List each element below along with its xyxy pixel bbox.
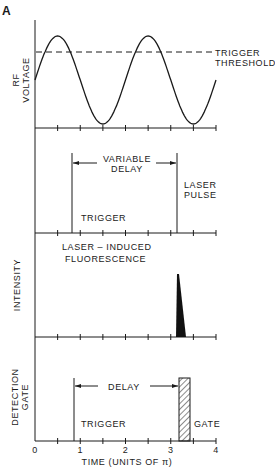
arrowhead-right [172,384,178,388]
gate-label: GATE [194,419,220,429]
rf-ylabel-2: VOLTAGE [21,57,31,102]
detection-ylabel-1: DETECTION [10,368,20,425]
fluorescence-spike [176,274,186,337]
variable-delay-label-1: VARIABLE [103,154,151,164]
rf-ylabel-1: RF [11,73,21,86]
arrowhead-right [170,161,176,165]
rf-voltage-curve [35,36,216,124]
variable-delay-label-2: DELAY [111,164,143,174]
x-tick-label: 4 [213,445,219,455]
trigger-label: TRIGGER [81,213,126,223]
x-tick-label: 0 [32,445,38,455]
delay-label: DELAY [108,382,140,392]
laser-pulse-label-1: LASER [184,180,217,190]
trigger-threshold-label-2: THRESHOLD [215,58,275,68]
trigger-threshold-label-1: TRIGGER [215,48,260,58]
detection-ylabel-2: GATE [20,384,30,410]
fluorescence-label-1: LASER – INDUCED [62,242,152,252]
panel-letter: A [2,4,11,18]
x-tick-label: 2 [123,445,129,455]
x-tick-label: 1 [77,445,83,455]
laser-pulse-label-2: PULSE [184,190,217,200]
x-tick-labels: 01234 [32,445,219,455]
intensity-ylabel: INTENSITY [12,259,22,311]
detection-gate-box [179,378,190,441]
fluorescence-label-2: FLUORESCENCE [65,254,146,264]
x-tick-label: 3 [168,445,174,455]
timing-diagram: A TRIGGER THRESHOLD RF VOLTAGE VARIABLE … [0,0,275,475]
x-axis-label: TIME (UNITS OF π) [82,457,173,467]
gate-trigger-label: TRIGGER [81,419,126,429]
arrowhead-left [73,161,79,165]
arrowhead-left [75,384,81,388]
